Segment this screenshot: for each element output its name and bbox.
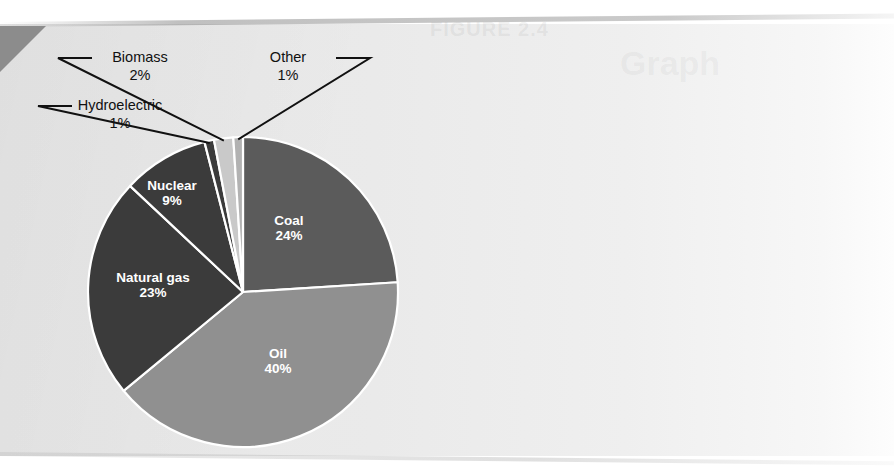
pie-label-value-biomass: 2% [130,67,151,83]
pie-label-value-nuclear: 9% [162,193,182,208]
pie-label-name-hydroelectric: Hydroelectric [78,97,163,113]
pie-label-name-nuclear: Nuclear [147,178,197,193]
pie-chart: Coal24%Oil40%Natural gas23%Nuclear9%Hydr… [0,0,894,476]
pie-label-name-biomass: Biomass [112,49,168,65]
pie-chart-svg: Coal24%Oil40%Natural gas23%Nuclear9%Hydr… [0,0,894,476]
pie-label-value-coal: 24% [275,228,302,243]
leader-line-other [238,58,370,139]
pie-label-value-oil: 40% [264,361,291,376]
pie-label-name-oil: Oil [269,346,287,361]
pie-label-value-other: 1% [278,67,299,83]
pie-label-coal: Coal24% [274,213,303,243]
pie-label-name-natural-gas: Natural gas [116,270,190,285]
pie-label-value-natural-gas: 23% [139,285,166,300]
pie-label-name-coal: Coal [274,213,303,228]
pie-slice-group [88,137,398,447]
pie-label-other: Other1% [270,49,306,83]
pie-label-value-hydroelectric: 1% [110,115,131,131]
pie-label-name-other: Other [270,49,306,65]
figure-page: FIGURE 2.4 Graph Coal24%Oil40%Natural ga… [0,0,894,476]
pie-label-hydroelectric: Hydroelectric1% [78,97,163,131]
pie-slice-coal[interactable] [243,137,398,292]
pie-label-biomass: Biomass2% [112,49,168,83]
